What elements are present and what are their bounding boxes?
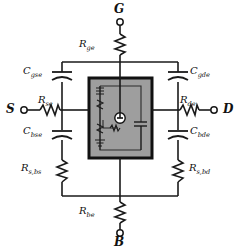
resistor-r-s-bs-symbol: [57, 160, 67, 182]
terminal-label-drain: D: [223, 103, 233, 115]
drain-label-text: D: [223, 102, 233, 116]
terminal-label-source: S: [6, 103, 15, 115]
terminal-label-gate: G: [114, 3, 124, 15]
capacitor-c-bde-symbol: [168, 131, 188, 139]
label-c-gse: Cgse: [23, 66, 42, 79]
label-c-bde: Cbde: [190, 126, 210, 139]
terminal-node-gate[interactable]: [117, 19, 123, 25]
resistor-r-s-bd-symbol: [173, 160, 183, 182]
label-r-s-bd: Rs,bd: [189, 163, 210, 176]
source-label-text: S: [6, 102, 15, 116]
resistor-r-be-symbol: [115, 202, 125, 223]
label-r-be: Rbe: [79, 206, 95, 219]
terminal-node-drain[interactable]: [211, 107, 217, 113]
gate-label-text: G: [114, 2, 124, 16]
terminal-node-source[interactable]: [21, 107, 27, 113]
label-r-de: Rde: [180, 95, 196, 108]
capacitor-c-gde-symbol: [168, 72, 188, 80]
label-r-s-bs: Rs,bs: [21, 163, 41, 176]
bulk-label-text: B: [114, 235, 124, 249]
label-r-ge: Rge: [79, 39, 95, 52]
capacitor-c-gse-symbol: [52, 72, 72, 80]
resistor-r-ge-symbol: [115, 34, 125, 55]
label-c-gde: Cgde: [190, 66, 210, 79]
label-r-se: Rse: [38, 95, 53, 108]
terminal-label-bulk: B: [114, 236, 124, 248]
capacitor-c-bse-symbol: [52, 131, 72, 139]
label-c-bse: Cbse: [23, 126, 42, 139]
